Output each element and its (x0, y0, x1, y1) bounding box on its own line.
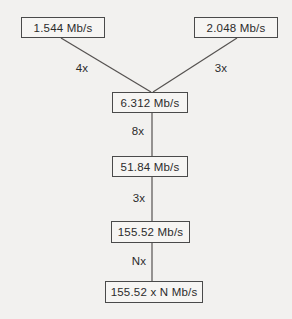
multiplexing-hierarchy-diagram: 1.544 Mb/s 2.048 Mb/s 6.312 Mb/s 51.84 M… (0, 0, 292, 319)
edge-multiplier-3x-right: 3x (215, 62, 228, 74)
edge-line-1544-to-6312 (61, 38, 151, 92)
rate-node-1544-mbps: 1.544 Mb/s (21, 17, 105, 38)
edge-multiplier-8x: 8x (132, 125, 145, 137)
edge-multiplier-nx: Nx (132, 255, 146, 267)
rate-node-15552xn-mbps: 155.52 x N Mb/s (105, 281, 203, 303)
rate-node-2048-mbps: 2.048 Mb/s (194, 17, 278, 38)
edge-multiplier-3x-middle: 3x (133, 192, 146, 204)
rate-node-6312-mbps: 6.312 Mb/s (112, 92, 188, 113)
rate-node-5184-mbps: 51.84 Mb/s (112, 156, 188, 177)
rate-node-15552-mbps: 155.52 Mb/s (111, 221, 190, 243)
edge-multiplier-4x-left: 4x (76, 62, 89, 74)
